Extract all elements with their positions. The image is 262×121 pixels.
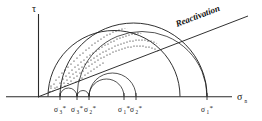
svg-text:σ: σ bbox=[84, 105, 88, 114]
mid-circle-outer bbox=[89, 73, 136, 97]
svg-text:n: n bbox=[245, 98, 248, 104]
svg-text:*: * bbox=[80, 104, 84, 112]
svg-text:σ: σ bbox=[54, 105, 58, 114]
tick-label-sigma1-star-a: σ 1 * bbox=[118, 104, 131, 115]
svg-text:σ: σ bbox=[118, 105, 122, 114]
tick-label-sigma3-star-b: σ 3 * bbox=[71, 104, 84, 115]
svg-text:*: * bbox=[210, 104, 214, 112]
svg-text:*: * bbox=[93, 104, 97, 112]
svg-text:*: * bbox=[139, 104, 143, 112]
svg-text:σ: σ bbox=[71, 105, 75, 114]
stipple-region bbox=[43, 26, 180, 95]
reactivation-label: Reactivation bbox=[173, 3, 221, 29]
svg-text:σ: σ bbox=[201, 105, 205, 114]
small-circle-left bbox=[60, 88, 77, 97]
sigma-n-axis-label: σ n bbox=[237, 91, 248, 104]
tick-label-sigma2-star-b: σ 2 * bbox=[130, 104, 143, 115]
diagram-canvas: σ 3 * σ 3 * σ 2 * σ 1 * σ 2 * bbox=[0, 0, 262, 121]
svg-text:σ: σ bbox=[130, 105, 134, 114]
svg-text:*: * bbox=[63, 104, 67, 112]
tick-label-group: σ 3 * σ 3 * σ 2 * σ 1 * σ 2 * bbox=[54, 104, 214, 115]
svg-text:σ: σ bbox=[237, 91, 243, 102]
tau-axis-label: τ bbox=[32, 3, 36, 14]
small-circle-left-b bbox=[77, 91, 89, 97]
tick-label-sigma3-star-a: σ 3 * bbox=[54, 104, 67, 115]
mohr-diagram-figure: σ 3 * σ 3 * σ 2 * σ 1 * σ 2 * bbox=[0, 0, 262, 121]
tick-label-sigma1-star-b: σ 1 * bbox=[201, 104, 214, 115]
tick-label-sigma2-star-a: σ 2 * bbox=[84, 104, 97, 115]
